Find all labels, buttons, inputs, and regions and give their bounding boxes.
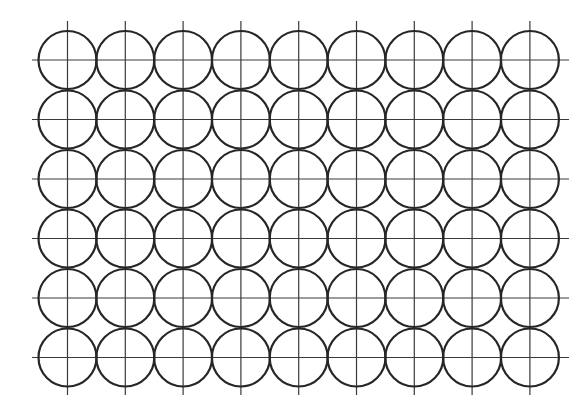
circle-grid-diagram — [0, 0, 585, 404]
